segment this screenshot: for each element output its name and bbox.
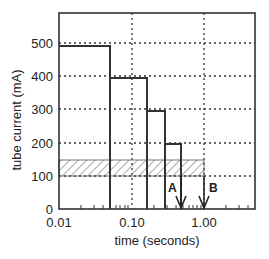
x-tick-0.10: 0.10 [119,215,144,230]
y-tick-300: 300 [31,102,53,117]
y-tick-200: 200 [31,136,53,151]
y-tick-500: 500 [31,36,53,51]
hatched-band [59,160,204,176]
y-tick-100: 100 [31,169,53,184]
annotation-a: A [168,181,177,195]
arrow-a [176,176,186,208]
arrow-b [199,176,209,208]
x-tick-1.00: 1.00 [191,215,216,230]
y-tick-400: 400 [31,69,53,84]
x-tick-0.01: 0.01 [46,215,71,230]
y-axis-title: tube current (mA) [9,69,24,170]
x-axis-title: time (seconds) [114,233,199,248]
step-bars [59,46,181,209]
annotation-b: B [209,181,218,195]
chart: A B 0 100 200 300 400 500 0.01 0.10 1.00… [0,0,269,259]
